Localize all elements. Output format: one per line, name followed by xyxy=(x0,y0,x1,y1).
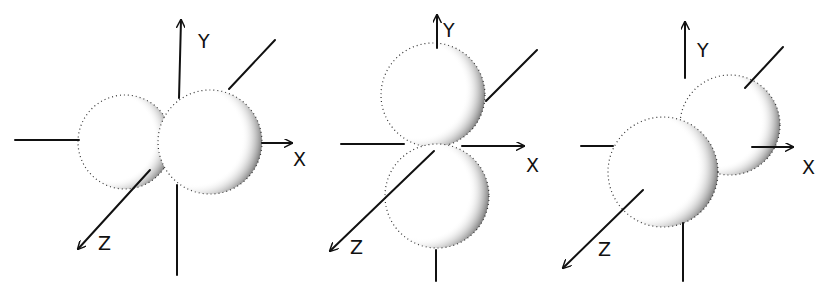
z-axis-label: Z xyxy=(350,236,363,258)
lobe-bottom xyxy=(385,144,489,248)
x-axis-label: X xyxy=(293,148,306,170)
lobe-front xyxy=(608,117,718,227)
y-axis-label: Y xyxy=(197,30,210,52)
z-axis-label: Z xyxy=(598,238,611,260)
panel-pz: Y X Z xyxy=(563,22,815,281)
y-axis-label: Y xyxy=(442,19,455,41)
lobe-left xyxy=(78,95,172,189)
lobe-right xyxy=(158,90,262,194)
z-axis-back xyxy=(745,47,783,88)
y-axis-label: Y xyxy=(696,39,709,61)
lobe-top xyxy=(381,43,485,147)
y-axis-up xyxy=(179,20,181,98)
x-axis-label: X xyxy=(802,156,815,178)
z-axis-back xyxy=(486,50,537,101)
panel-py: Y X Z xyxy=(330,15,539,281)
z-axis-label: Z xyxy=(98,232,111,254)
panel-px: Y X Z xyxy=(15,20,306,275)
z-axis-back xyxy=(229,40,275,89)
p-orbitals-figure: Y X Z Y X Z xyxy=(0,0,831,284)
x-axis-label: X xyxy=(526,154,539,176)
